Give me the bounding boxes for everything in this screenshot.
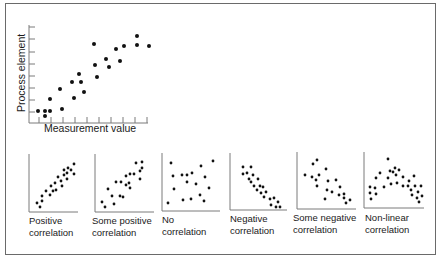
panel-label-some-positive: Some positive correlation bbox=[92, 215, 152, 239]
panel-non-linear-points bbox=[369, 158, 424, 204]
panel-negative-points bbox=[242, 166, 282, 209]
panel-axes bbox=[29, 152, 424, 212]
panel-positive-points bbox=[36, 163, 76, 209]
main-chart-points bbox=[36, 34, 151, 118]
panel-label-non-linear: Non-linear correlation bbox=[365, 212, 409, 236]
panel-label-positive: Positive correlation bbox=[29, 215, 73, 239]
panel-some-positive-points bbox=[101, 161, 144, 209]
main-chart-y-axis-label: Process element bbox=[15, 34, 27, 112]
main-chart-axes bbox=[29, 25, 148, 123]
panel-label-some-negative: Some negative correlation bbox=[293, 212, 356, 236]
panel-label-no-correlation: No correlation bbox=[162, 214, 206, 238]
panel-label-negative: Negative correlation bbox=[230, 213, 274, 237]
main-chart-x-axis-label: Measurement value bbox=[44, 122, 136, 134]
panel-some-negative-points bbox=[304, 159, 352, 205]
panel-no-correlation-points bbox=[167, 160, 215, 205]
